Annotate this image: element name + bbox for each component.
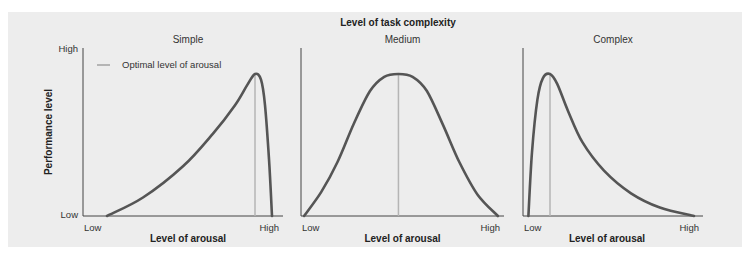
chart-svg: Level of task complexity Performance lev… xyxy=(0,0,750,255)
curve-medium xyxy=(304,74,498,216)
y-axis-label: Performance level xyxy=(43,89,54,175)
x-axis-label-medium: Level of arousal xyxy=(364,233,440,244)
chart-title: Level of task complexity xyxy=(340,17,456,28)
legend-label: Optimal level of arousal xyxy=(122,59,221,70)
panel-title-simple: Simple xyxy=(173,34,204,45)
curve-simple xyxy=(107,74,272,216)
x-axis-label-simple: Level of arousal xyxy=(150,233,226,244)
x-tick-high-simple: High xyxy=(259,222,279,233)
x-axis-label-complex: Level of arousal xyxy=(569,233,645,244)
y-tick-low: Low xyxy=(61,209,79,220)
x-tick-high-medium: High xyxy=(480,222,500,233)
x-tick-low-simple: Low xyxy=(84,222,102,233)
panel-title-complex: Complex xyxy=(593,34,632,45)
x-tick-high-complex: High xyxy=(679,222,699,233)
y-tick-high: High xyxy=(58,43,78,54)
x-tick-low-complex: Low xyxy=(524,222,542,233)
curve-complex xyxy=(528,74,694,216)
panel-title-medium: Medium xyxy=(385,34,421,45)
x-tick-low-medium: Low xyxy=(302,222,320,233)
